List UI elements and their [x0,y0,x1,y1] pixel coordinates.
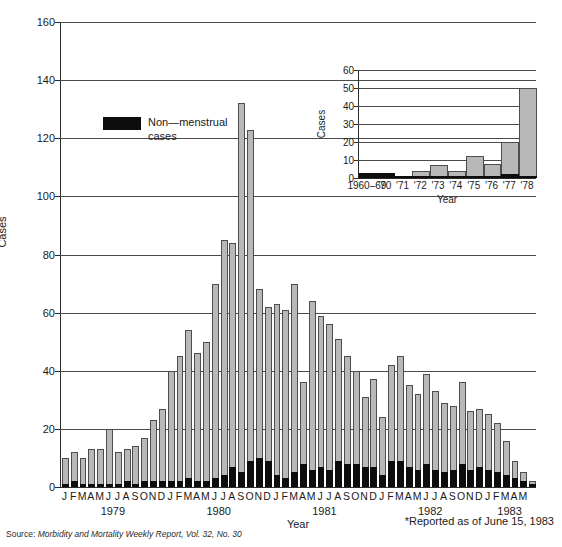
main-bar-non-menstrual-segment [529,484,536,487]
main-bar [88,449,95,487]
month-tick-label: F [70,490,76,502]
y-tick-label: 140 [37,74,55,86]
main-bar [124,449,131,487]
month-tick-label: N [255,490,263,502]
main-bar [370,379,377,487]
main-bar [423,374,430,487]
inset-x-tick-label: '70 [378,180,391,191]
source-note: Source: Morbidity and Mortality Weekly R… [6,529,242,539]
main-bar-non-menstrual-segment [353,464,360,487]
y-tick-label: 80 [43,249,55,261]
main-bar-non-menstrual-segment [71,481,78,487]
month-tick-label: A [228,490,235,502]
main-bar-non-menstrual-segment [326,470,333,487]
inset-y-axis-tick [354,178,358,179]
month-tick-label: J [485,490,490,502]
month-tick-label: J [220,490,225,502]
inset-bar-non-menstrual-segment [466,176,484,178]
month-tick-label: M [395,490,404,502]
inset-bar [377,173,395,178]
month-tick-label: M [201,490,210,502]
inset-bar-non-menstrual-segment [519,176,537,178]
main-bar-non-menstrual-segment [194,481,201,487]
month-tick-label: A [405,490,412,502]
inset-y-tick-label: 30 [343,119,354,130]
main-bar-non-menstrual-segment [370,467,377,487]
inset-plot-area [358,70,536,178]
y-axis-tick [55,255,60,256]
main-bar [150,420,157,487]
main-bar [494,423,501,487]
month-tick-label: A [193,490,200,502]
y-tick-label: 100 [37,190,55,202]
month-tick-label: J [379,490,384,502]
main-bar [221,240,228,487]
inset-x-axis-line [358,178,536,179]
month-tick-label: F [176,490,182,502]
month-tick-label: J [432,490,437,502]
inset-x-tick-label: '74 [449,180,462,191]
inset-x-tick-labels: 1960–69'70'71'72'73'74'75'76'77'78 [358,180,536,193]
main-bar-non-menstrual-segment [415,470,422,487]
inset-y-tick-labels: 0102030405060 [332,70,354,178]
year-group-label: 1979 [101,505,125,517]
main-bar-non-menstrual-segment [132,484,139,487]
inset-bar [359,173,377,178]
inset-y-tick-label: 40 [343,101,354,112]
main-bar-non-menstrual-segment [476,467,483,487]
year-group-label: 1980 [206,505,230,517]
month-tick-label: N [466,490,474,502]
month-tick-label: D [369,490,377,502]
inset-bar [466,156,484,178]
main-bar-non-menstrual-segment [432,470,439,487]
inset-x-tick-label: '72 [414,180,427,191]
main-bar-non-menstrual-segment [503,475,510,487]
main-bar [115,452,122,487]
main-bar-non-menstrual-segment [282,478,289,487]
main-bar-non-menstrual-segment [238,472,245,487]
main-bar [229,243,236,487]
month-tick-label: J [326,490,331,502]
main-bar-non-menstrual-segment [467,470,474,487]
month-tick-label: J [62,490,67,502]
main-bar [265,307,272,487]
main-bar [256,289,263,487]
main-bar-non-menstrual-segment [177,481,184,487]
month-tick-label: S [449,490,456,502]
main-bar-non-menstrual-segment [494,472,501,487]
main-bar [467,411,474,487]
main-bar-non-menstrual-segment [335,461,342,487]
main-y-tick-labels: 020406080100120140160 [22,22,55,487]
month-tick-label: M [78,490,87,502]
main-bar [326,324,333,487]
month-tick-label: A [299,490,306,502]
inset-x-tick-label: '78 [521,180,534,191]
main-bar-non-menstrual-segment [397,461,404,487]
main-bar [159,409,166,487]
month-tick-label: O [351,490,359,502]
main-bar [106,429,113,487]
y-axis-tick [55,487,60,488]
month-tick-label: J [168,490,173,502]
inset-bar-non-menstrual-segment [484,176,502,178]
main-bar [362,397,369,487]
main-bar [291,284,298,487]
main-bar [529,481,536,487]
inset-bar-non-menstrual-segment [501,174,519,178]
inset-bar-non-menstrual-segment [430,176,448,178]
main-bar [335,339,342,487]
main-x-month-labels: JFMAMJJASONDJFMAMJJASONDJFMAMJJASONDJFMA… [60,490,536,504]
main-bar [194,353,201,487]
year-group-label: 1981 [312,505,336,517]
inset-bar [484,164,502,178]
main-bar-non-menstrual-segment [379,475,386,487]
inset-x-tick-label: '71 [396,180,409,191]
y-axis-tick [55,429,60,430]
month-tick-label: D [263,490,271,502]
inset-bar [519,88,537,178]
main-bar-non-menstrual-segment [344,464,351,487]
main-bar-non-menstrual-segment [318,467,325,487]
month-tick-label: M [95,490,104,502]
y-tick-label: 60 [43,307,55,319]
y-axis-tick [55,80,60,81]
